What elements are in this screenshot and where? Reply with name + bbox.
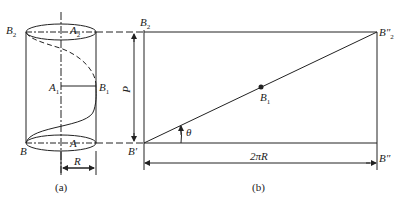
label-b2-b: B2: [140, 17, 150, 31]
label-b1-a: B1: [99, 82, 109, 96]
label-b2-a: B2: [6, 25, 16, 39]
label-a2: A2: [70, 25, 80, 39]
label-b-dprime: B″: [379, 153, 390, 164]
label-a1: A1: [49, 82, 59, 96]
label-a: A: [70, 138, 77, 149]
label-b: B: [20, 146, 27, 157]
helix-diagram: [0, 0, 400, 203]
b1-point: [259, 85, 264, 90]
caption-a: (a): [55, 182, 67, 193]
label-r: R: [74, 156, 81, 167]
label-theta: θ: [186, 127, 191, 138]
label-b-prime: B′: [128, 146, 137, 157]
label-b2-dprime: B″2: [379, 27, 394, 41]
label-2pir: 2πR: [250, 151, 268, 162]
label-p: P: [121, 86, 132, 93]
label-b1-b: B1: [260, 92, 270, 106]
caption-b: (b): [252, 182, 265, 193]
